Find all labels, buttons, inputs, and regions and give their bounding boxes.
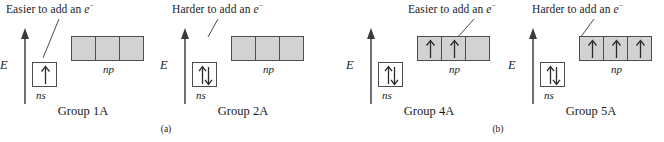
np-orbital-box — [579, 36, 604, 61]
np-orbital-box — [231, 36, 256, 61]
axis-label-energy-4a: E — [346, 58, 354, 73]
axis-label-energy-2a: E — [160, 58, 168, 73]
group-title-2a: Group 2A — [160, 104, 326, 119]
axis-label-energy-5a: E — [508, 58, 516, 73]
group-title-4a: Group 4A — [346, 104, 512, 119]
spin-up-arrow-icon — [418, 37, 443, 62]
ns-sublabel-4a: ns — [382, 89, 392, 101]
np-orbital-box — [279, 36, 304, 61]
group-unit-4a: Easier to add an e− E — [346, 0, 512, 142]
ns-orbital-row-2a — [192, 62, 217, 87]
np-orbital-box — [627, 36, 652, 61]
group-title-5a: Group 5A — [508, 104, 664, 119]
spin-up-arrow-icon — [33, 63, 58, 88]
callout-label-2a: Harder to add an e− — [172, 2, 263, 16]
axis-label-energy-1a: E — [0, 58, 8, 73]
np-sublabel-5a: np — [611, 63, 622, 75]
electron-charge: − — [90, 1, 94, 10]
spin-up-arrow-icon — [580, 37, 605, 62]
ns-orbital-row-4a — [378, 62, 403, 87]
orbital-diagram-figure: Easier to add an e− E ns — [0, 0, 664, 142]
group-title-1a: Group 1A — [0, 104, 166, 119]
np-orbital-box — [95, 36, 120, 61]
electron-charge: − — [619, 1, 623, 10]
np-orbital-row-1a — [71, 36, 144, 61]
np-orbital-row-2a — [231, 36, 304, 61]
callout-label-4a: Easier to add an e− — [408, 2, 496, 16]
ns-orbital-row-5a — [540, 62, 565, 87]
np-orbital-box — [119, 36, 144, 61]
panel-caption-b: (b) — [332, 124, 664, 134]
spin-up-arrow-icon — [442, 37, 467, 62]
electron-charge: − — [259, 1, 263, 10]
np-orbital-box — [603, 36, 628, 61]
np-orbital-box — [71, 36, 96, 61]
ns-orbital-row-1a — [32, 62, 57, 87]
np-orbital-row-5a — [579, 36, 652, 61]
ns-orbital-box — [32, 62, 57, 87]
group-unit-5a: Harder to add an e− E — [508, 0, 664, 142]
ns-orbital-box — [540, 62, 565, 87]
callout-label-5a: Harder to add an e− — [532, 2, 623, 16]
np-orbital-box — [417, 36, 442, 61]
panel-caption-a: (a) — [0, 124, 332, 134]
np-orbital-box — [441, 36, 466, 61]
spin-up-arrow-icon — [604, 37, 629, 62]
spin-pair-arrows-icon — [379, 63, 404, 88]
np-sublabel-4a: np — [449, 63, 460, 75]
group-unit-1a: Easier to add an e− E ns — [0, 0, 166, 142]
group-unit-2a: Harder to add an e− E — [160, 0, 326, 142]
panel-a: Easier to add an e− E ns — [0, 0, 332, 142]
np-sublabel-2a: np — [263, 63, 274, 75]
ns-sublabel-5a: ns — [544, 89, 554, 101]
np-sublabel-1a: np — [103, 63, 114, 75]
spin-pair-arrows-icon — [193, 63, 218, 88]
spin-up-arrow-icon — [628, 37, 653, 62]
panel-b: Easier to add an e− E — [332, 0, 664, 142]
ns-sublabel-1a: ns — [36, 89, 46, 101]
np-orbital-box — [255, 36, 280, 61]
np-orbital-row-4a — [417, 36, 490, 61]
np-orbital-box — [465, 36, 490, 61]
ns-orbital-box — [192, 62, 217, 87]
ns-orbital-box — [378, 62, 403, 87]
spin-pair-arrows-icon — [541, 63, 566, 88]
ns-sublabel-2a: ns — [196, 89, 206, 101]
electron-charge: − — [492, 1, 496, 10]
callout-label-1a: Easier to add an e− — [6, 2, 94, 16]
